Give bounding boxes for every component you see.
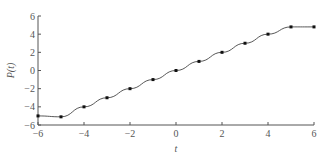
data-point-marker	[83, 105, 86, 108]
data-point-marker	[60, 115, 63, 118]
y-tick-label: 6	[30, 11, 35, 22]
data-point-marker	[152, 78, 155, 81]
y-tick-label: −4	[24, 101, 35, 112]
x-tick-label: 2	[220, 128, 225, 139]
data-point-marker	[198, 60, 201, 63]
data-point-marker	[290, 25, 293, 28]
y-tick-label: −2	[24, 83, 35, 94]
data-point-marker	[221, 51, 224, 54]
x-tick-label: 6	[312, 128, 317, 139]
x-tick-label: −4	[79, 128, 90, 139]
data-point-marker	[37, 114, 40, 117]
data-point-marker	[106, 96, 109, 99]
data-point-marker	[244, 42, 247, 45]
data-point-marker	[175, 69, 178, 72]
line-chart: −6−4−202466420−2−4−6tP(t)	[0, 0, 323, 156]
y-tick-label: 4	[30, 29, 35, 40]
chart-container: −6−4−202466420−2−4−6tP(t)	[0, 0, 323, 156]
data-point-marker	[129, 87, 132, 90]
y-tick-label: 2	[30, 47, 35, 58]
x-tick-label: 0	[174, 128, 179, 139]
x-axis-label: t	[175, 143, 178, 154]
y-tick-label: 0	[30, 65, 35, 76]
y-tick-label: −6	[24, 120, 35, 131]
data-point-marker	[267, 33, 270, 36]
x-tick-label: 4	[266, 128, 271, 139]
x-tick-label: −2	[125, 128, 136, 139]
data-point-marker	[313, 25, 316, 28]
y-axis-label: P(t)	[5, 62, 17, 79]
